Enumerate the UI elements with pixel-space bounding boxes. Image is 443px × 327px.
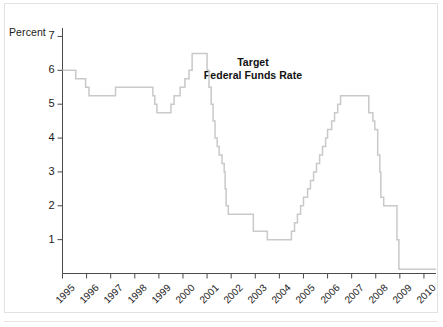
- x-axis-ticks: [63, 274, 424, 279]
- y-axis-ticks: [58, 36, 63, 239]
- axis-lines: [63, 28, 437, 274]
- chart-figure: Percent Target Federal Funds Rate 123456…: [0, 0, 443, 327]
- series-line-target-federal-funds-rate: [63, 53, 437, 269]
- chart-plot-area: [0, 0, 443, 327]
